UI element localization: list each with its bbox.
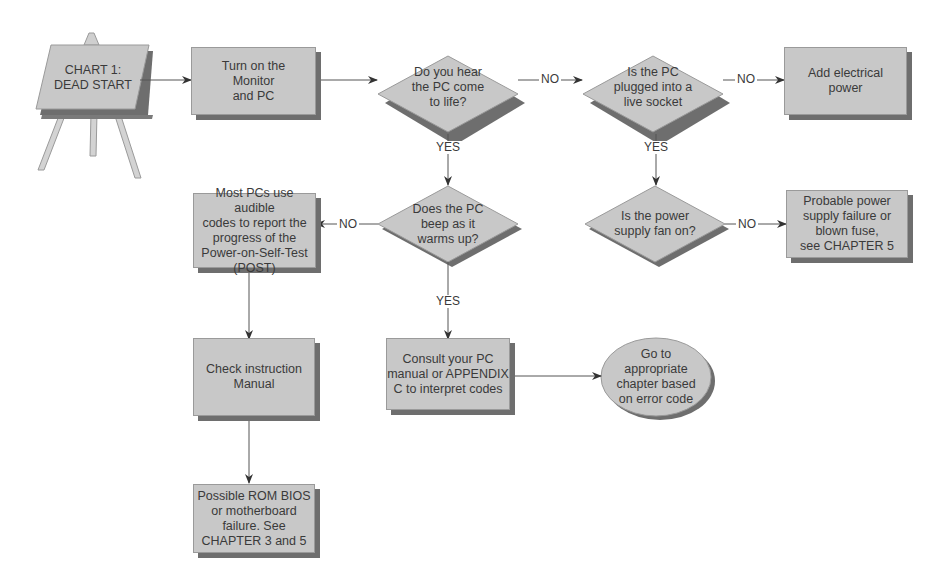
process-psu-failure: Probable power supply failure or blown f… xyxy=(786,190,908,258)
edge-label-no-fan-on: NO xyxy=(736,218,758,231)
edge-label-no-plugged-in: NO xyxy=(735,73,757,86)
chart-title-label: CHART 1: DEAD START xyxy=(54,63,132,93)
plugged-in-label: Is the PC plugged into a live socket xyxy=(614,65,693,110)
beep-label: Does the PC beep as it warms up? xyxy=(413,202,484,247)
edge-label-yes-plugged-in: YES xyxy=(642,141,670,154)
process-consult-manual: Consult your PC manual or APPENDIX C to … xyxy=(386,338,510,410)
process-post-codes: Most PCs use audible codes to report the… xyxy=(193,193,316,268)
decision-beep: Does the PC beep as it warms up? xyxy=(398,197,498,251)
post-codes-label: Most PCs use audible codes to report the… xyxy=(194,186,315,276)
decision-fan-on: Is the power supply fan on? xyxy=(605,204,705,244)
process-turn-on: Turn on the Monitor and PC xyxy=(191,47,316,115)
add-power-label: Add electrical power xyxy=(808,66,883,96)
process-check-manual: Check instruction Manual xyxy=(193,338,315,416)
fan-on-label: Is the power supply fan on? xyxy=(614,209,695,239)
hear-life-label: Do you hear the PC come to life? xyxy=(412,65,484,110)
turn-on-label: Turn on the Monitor and PC xyxy=(222,59,285,104)
start-node-chart-title: CHART 1: DEAD START xyxy=(44,52,142,104)
process-rom-bios: Possible ROM BIOS or motherboard failure… xyxy=(193,484,315,553)
terminal-go-chapter: Go to appropriate chapter based on error… xyxy=(606,345,706,409)
process-add-power: Add electrical power xyxy=(784,47,907,115)
check-manual-label: Check instruction Manual xyxy=(206,362,302,392)
decision-hear-life: Do you hear the PC come to life? xyxy=(398,60,498,114)
edge-label-yes-beep: YES xyxy=(434,295,462,308)
connectors xyxy=(140,80,786,483)
decision-plugged-in: Is the PC plugged into a live socket xyxy=(603,60,703,114)
consult-manual-label: Consult your PC manual or APPENDIX C to … xyxy=(387,352,509,397)
go-chapter-label: Go to appropriate chapter based on error… xyxy=(616,347,695,407)
edge-label-no-hear-life: NO xyxy=(539,73,561,86)
edge-label-no-beep: NO xyxy=(337,218,359,231)
psu-failure-label: Probable power supply failure or blown f… xyxy=(800,194,894,254)
rom-bios-label: Possible ROM BIOS or motherboard failure… xyxy=(197,489,310,549)
edge-label-yes-hear-life: YES xyxy=(434,141,462,154)
